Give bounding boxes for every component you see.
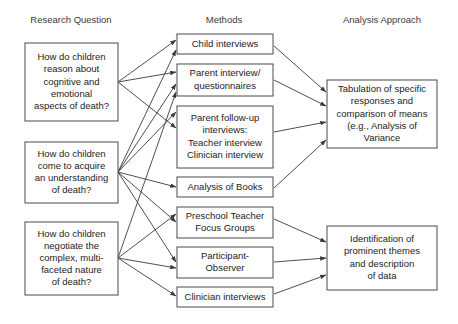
method-node-m1: Child interviews	[177, 34, 273, 54]
edge-rq3-to-m5	[118, 214, 176, 258]
column-headers: Research Question Methods Analysis Appro…	[30, 14, 421, 25]
research-question-label-rq1-line-3: emotional	[51, 88, 92, 99]
column-header-research-question: Research Question	[30, 14, 111, 25]
edge-m6-to-a2	[274, 258, 326, 262]
research-question-label-rq2-line-3: of death?	[52, 184, 92, 195]
method-label-m3-line-2: Teacher interview	[188, 137, 262, 148]
research-question-node-rq2: How do childrencome to acquirean underst…	[25, 142, 118, 203]
analysis-label-a2-line-0: Identification of	[350, 233, 414, 244]
method-label-m3-line-1: interviews:	[203, 124, 248, 135]
research-question-label-rq1-line-4: aspects of death?	[34, 100, 109, 111]
research-question-node-rq3: How do childrennegotiate thecomplex, mul…	[25, 222, 118, 295]
analysis-label-a1-line-2: comparison of means	[337, 108, 428, 119]
method-node-m5: Preschool TeacherFocus Groups	[177, 207, 273, 238]
edge-rq2-to-m3	[118, 112, 176, 172]
edge-m2-to-a1	[274, 80, 326, 106]
edge-rq2-to-m6	[118, 172, 176, 262]
research-question-label-rq2-line-0: How do children	[37, 148, 105, 159]
research-design-diagram: Research Question Methods Analysis Appro…	[0, 0, 458, 324]
research-question-label-rq3-line-1: negotiate the	[44, 240, 99, 251]
method-node-m2: Parent interview/questionnaires	[177, 64, 273, 96]
method-label-m3-line-0: Parent follow-up	[191, 112, 260, 123]
edge-rq3-to-m7	[118, 258, 176, 296]
method-label-m3-line-3: Clinician interview	[187, 149, 263, 160]
analysis-label-a2-line-2: and description	[350, 258, 414, 269]
edge-m4-to-a1	[274, 140, 326, 188]
nodes-layer: How do childrenreason aboutcognitive and…	[25, 34, 437, 307]
analysis-label-a1-line-4: Variance	[364, 132, 401, 143]
research-question-label-rq1-line-0: How do children	[37, 51, 105, 62]
analysis-label-a1-line-1: responses and	[351, 95, 413, 106]
method-label-m2-line-1: questionnaires	[194, 80, 256, 91]
edge-rq2-to-m2	[118, 84, 176, 172]
diagram-canvas: Research Question Methods Analysis Appro…	[0, 0, 458, 324]
method-label-m1-line-0: Child interviews	[192, 38, 259, 49]
method-node-m7: Clinician interviews	[177, 287, 273, 307]
edge-m1-to-a1	[274, 46, 326, 92]
column-header-methods: Methods	[206, 14, 243, 25]
analysis-label-a2-line-1: prominent themes	[344, 245, 420, 256]
analysis-node-a2: Identification ofprominent themesand des…	[327, 226, 437, 290]
research-question-label-rq1-line-1: reason about	[44, 63, 100, 74]
column-header-analysis-approach: Analysis Approach	[343, 14, 421, 25]
edge-rq1-to-m1	[118, 40, 176, 82]
method-label-m5-line-0: Preschool Teacher	[186, 210, 265, 221]
method-label-m5-line-1: Focus Groups	[195, 222, 255, 233]
method-node-m4: Analysis of Books	[177, 177, 273, 197]
research-question-label-rq2-line-1: come to acquire	[38, 160, 106, 171]
edge-rq2-to-m1	[118, 50, 176, 172]
analysis-node-a1: Tabulation of specificresponses andcompa…	[327, 80, 437, 148]
edge-m7-to-a2	[274, 275, 326, 294]
research-question-node-rq1: How do childrenreason aboutcognitive and…	[25, 43, 118, 121]
edge-m3-to-a1	[274, 122, 326, 132]
edge-rq3-to-m2	[118, 92, 176, 258]
research-question-label-rq3-line-4: of death?	[52, 276, 92, 287]
method-label-m2-line-0: Parent interview/	[190, 67, 261, 78]
research-question-label-rq3-line-3: faceted nature	[41, 264, 102, 275]
edge-rq1-to-m2	[118, 72, 176, 82]
edge-m5-to-a2	[274, 219, 326, 242]
research-question-label-rq3-line-2: complex, multi-	[40, 252, 104, 263]
method-node-m6: Participant-Observer	[177, 247, 273, 278]
method-label-m7-line-0: Clinician interviews	[185, 291, 266, 302]
research-question-label-rq2-line-2: an understanding	[35, 172, 108, 183]
analysis-label-a1-line-3: (e.g., Analysis of	[347, 120, 417, 131]
method-node-m3: Parent follow-upinterviews:Teacher inter…	[177, 106, 273, 168]
method-label-m6-line-1: Observer	[205, 262, 244, 273]
analysis-label-a2-line-3: of data	[367, 270, 397, 281]
analysis-label-a1-line-0: Tabulation of specific	[338, 83, 426, 94]
edge-rq3-to-m6	[118, 258, 176, 268]
research-question-label-rq3-line-0: How do children	[37, 228, 105, 239]
research-question-label-rq1-line-2: cognitive and	[44, 76, 100, 87]
method-label-m6-line-0: Participant-	[201, 250, 249, 261]
method-label-m4-line-0: Analysis of Books	[188, 181, 263, 192]
